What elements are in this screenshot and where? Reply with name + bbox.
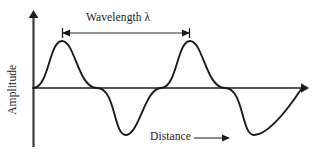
- x-axis: [33, 83, 309, 93]
- amplitude-axis-label: Amplitude: [7, 65, 19, 115]
- wavelength-left-arrowhead-icon: [62, 30, 70, 37]
- y-axis: [29, 10, 39, 147]
- wavelength-label: Wavelength λ: [86, 12, 150, 24]
- distance-arrowhead-icon: [222, 134, 230, 141]
- wave-diagram: Wavelength λ Distance Amplitude: [0, 0, 318, 155]
- distance-axis-label: Distance: [150, 131, 191, 143]
- y-axis-arrowhead-icon: [29, 10, 39, 18]
- distance-direction-arrow: [194, 134, 230, 141]
- wavelength-right-arrowhead-icon: [182, 30, 190, 37]
- wavelength-measure-arrow: [62, 28, 190, 38]
